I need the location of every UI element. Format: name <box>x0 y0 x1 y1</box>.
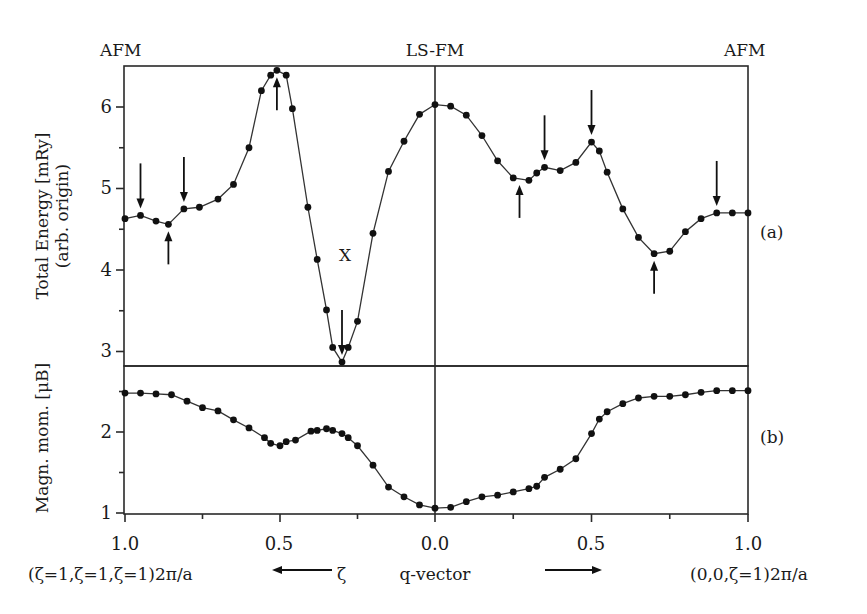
xtick-right-1: 1.0 <box>734 533 763 554</box>
data-point <box>329 427 336 434</box>
data-point <box>292 437 299 444</box>
arrowhead-icon <box>541 150 549 160</box>
data-point <box>682 391 689 398</box>
data-point <box>261 434 268 441</box>
data-point <box>230 181 237 188</box>
ytick-2: 2 <box>101 421 112 442</box>
data-point <box>230 416 237 423</box>
data-point <box>385 168 392 175</box>
data-point <box>713 387 720 394</box>
data-point <box>370 230 377 237</box>
ytick-6: 6 <box>101 96 112 117</box>
data-point <box>354 442 361 449</box>
arrowhead-icon <box>180 192 188 202</box>
data-point <box>246 425 253 432</box>
xtick-zero: 0.0 <box>421 533 450 554</box>
ytick-3: 3 <box>101 340 112 361</box>
data-point <box>533 170 540 177</box>
data-point <box>526 485 533 492</box>
data-point <box>572 159 579 166</box>
data-point <box>604 169 611 176</box>
data-point <box>604 408 611 415</box>
minimum-marker-x: X <box>339 245 352 265</box>
data-point <box>557 167 564 174</box>
data-point <box>267 72 274 79</box>
panel-a-label: (a) <box>760 222 783 242</box>
data-point <box>137 212 144 219</box>
data-point <box>354 318 361 325</box>
label-afm-left: AFM <box>99 40 141 60</box>
data-point <box>510 489 517 496</box>
data-point <box>215 196 222 203</box>
ytick-labels-b: 2 1 <box>101 421 112 523</box>
data-point <box>541 474 548 481</box>
right-arrowhead-icon <box>592 566 602 574</box>
data-point <box>168 391 175 398</box>
arrowhead-icon <box>516 185 524 195</box>
data-point <box>588 139 595 146</box>
ylabel-a-line2: (arb. origin) <box>52 164 72 268</box>
data-point <box>666 393 673 400</box>
data-point <box>479 132 486 139</box>
data-point <box>619 400 626 407</box>
label-ls-fm: LS-FM <box>406 40 465 60</box>
figure: AFM LS-FM AFM (a) (b) X 6 5 4 3 2 1 1.0 … <box>0 0 867 614</box>
panel-a-frame <box>124 66 748 366</box>
arrowhead-icon <box>164 231 172 241</box>
data-point <box>635 234 642 241</box>
transition-arrows <box>137 77 721 355</box>
x-left-direction: (ζ=1,ζ=1,ζ=1)2π/a <box>28 564 193 584</box>
data-point <box>246 144 253 151</box>
xtick-labels: 1.0 0.5 0.0 0.5 1.0 <box>111 533 763 554</box>
arrowhead-icon <box>137 198 145 208</box>
data-point <box>283 72 290 79</box>
data-point <box>339 430 346 437</box>
data-point <box>557 466 564 473</box>
data-point <box>463 112 470 119</box>
data-point <box>323 307 330 314</box>
data-point <box>122 215 129 222</box>
data-point <box>314 427 321 434</box>
axis-ticks <box>116 107 748 522</box>
data-point <box>666 248 673 255</box>
arrowhead-icon <box>713 196 721 206</box>
data-point <box>165 221 172 228</box>
data-point <box>494 492 501 499</box>
data-point <box>153 391 160 398</box>
data-point <box>432 505 439 512</box>
left-arrowhead-icon <box>272 566 282 574</box>
data-point <box>274 67 281 74</box>
data-point <box>345 434 352 441</box>
data-point <box>137 390 144 397</box>
data-point <box>729 210 736 217</box>
data-point <box>596 416 603 423</box>
data-point <box>588 430 595 437</box>
data-point <box>541 164 548 171</box>
data-point <box>651 250 658 257</box>
data-point <box>153 218 160 225</box>
data-point <box>533 483 540 490</box>
data-point <box>682 228 689 235</box>
data-point <box>745 210 752 217</box>
arrowhead-icon <box>273 77 281 87</box>
ytick-4: 4 <box>101 259 112 280</box>
data-point <box>122 390 129 397</box>
data-point <box>215 408 222 415</box>
data-point <box>283 438 290 445</box>
x-axis-title: q-vector <box>399 564 471 584</box>
data-point <box>494 157 501 164</box>
data-point <box>258 87 265 94</box>
data-point <box>385 484 392 491</box>
data-point <box>329 344 336 351</box>
data-point <box>447 103 454 110</box>
data-point <box>370 462 377 469</box>
series-line <box>125 70 748 362</box>
xtick-left-1: 1.0 <box>111 533 140 554</box>
data-point <box>447 504 454 511</box>
xtick-left-05: 0.5 <box>265 533 294 554</box>
data-point <box>713 210 720 217</box>
panel-b-frame <box>124 366 748 514</box>
data-point <box>401 138 408 145</box>
data-point <box>526 177 533 184</box>
data-point <box>698 389 705 396</box>
